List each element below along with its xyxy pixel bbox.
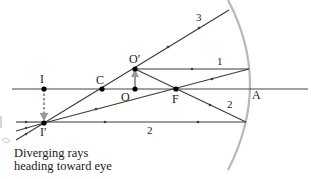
point-F — [173, 86, 178, 91]
diverging-rays-caption: Diverging rays heading toward eye — [14, 147, 144, 173]
ray-2-incident — [135, 69, 246, 122]
label-I-prime: I′ — [40, 125, 47, 139]
ray-1-reflected-arrow — [211, 78, 214, 81]
ray-1-arrow — [191, 68, 194, 71]
concave-mirror — [228, 0, 250, 170]
label-O-prime: O′ — [129, 52, 141, 66]
diverging-arrow-c — [25, 133, 27, 135]
diverging-arrow-a — [25, 121, 27, 123]
ray-1-reflected — [44, 69, 249, 123]
ray-3-arrow-out — [198, 27, 201, 30]
label-A: A — [252, 88, 261, 102]
ray-1-reflected-arrow-2 — [95, 108, 98, 111]
ray-3-arrow-back — [167, 46, 170, 49]
label-F: F — [172, 92, 179, 106]
point-C — [99, 86, 104, 91]
label-ray-1: 1 — [217, 55, 223, 67]
ray-2-reflected-arrow-2 — [104, 121, 107, 124]
caption-line-2: heading toward eye — [14, 160, 144, 173]
label-ray-2-upper: 2 — [227, 98, 233, 110]
label-O: O — [121, 90, 130, 104]
point-I — [41, 86, 46, 91]
label-ray-3: 3 — [196, 11, 202, 23]
ray-2-arrow — [209, 104, 212, 107]
ray-3 — [44, 10, 229, 123]
ray-2-reflected-arrow — [197, 121, 200, 124]
eye-icon — [2, 138, 10, 143]
eye-edge-mark — [0, 116, 2, 128]
label-ray-2-lower: 2 — [147, 124, 153, 136]
label-I: I — [40, 72, 44, 86]
point-O-prime — [132, 66, 137, 71]
label-C: C — [96, 73, 104, 87]
diverging-arrow-b — [25, 127, 27, 129]
point-O — [132, 86, 137, 91]
